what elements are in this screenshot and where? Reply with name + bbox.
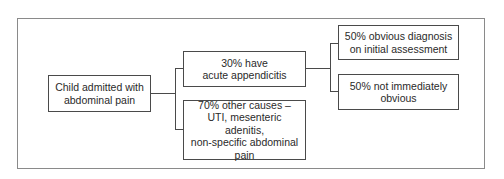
node-not-immediately-obvious: 50% not immediately obvious bbox=[338, 74, 459, 110]
connector-to-not-obvious bbox=[330, 91, 338, 92]
obvious-line-2: on initial assessment bbox=[345, 43, 452, 56]
connector-appendicitis-horizontal bbox=[306, 68, 331, 69]
not-obvious-line-2: obvious bbox=[350, 92, 447, 105]
other-causes-line-1: 70% other causes – bbox=[188, 99, 301, 112]
node-other-causes: 70% other causes – UTI, mesenteric adeni… bbox=[183, 100, 306, 160]
not-obvious-line-1: 50% not immediately bbox=[350, 80, 447, 93]
connector-root-horizontal bbox=[151, 93, 176, 94]
connector-to-other-causes bbox=[175, 129, 183, 130]
other-causes-line-3: non-specific abdominal bbox=[188, 136, 301, 149]
appendicitis-line-2: acute appendicitis bbox=[202, 69, 286, 82]
connector-level1-vertical bbox=[175, 68, 176, 130]
other-causes-line-2: UTI, mesenteric adenitis, bbox=[188, 111, 301, 136]
node-obvious-diagnosis: 50% obvious diagnosis on initial assessm… bbox=[338, 25, 459, 60]
connector-to-obvious bbox=[330, 43, 338, 44]
node-acute-appendicitis: 30% have acute appendicitis bbox=[183, 51, 306, 87]
root-node-line-2: abdominal pain bbox=[55, 94, 144, 107]
root-node-child-admitted: Child admitted with abdominal pain bbox=[48, 75, 151, 112]
connector-level2-vertical bbox=[330, 43, 331, 92]
connector-to-appendicitis bbox=[175, 68, 183, 69]
obvious-line-1: 50% obvious diagnosis bbox=[345, 30, 452, 43]
other-causes-line-4: pain bbox=[188, 149, 301, 162]
appendicitis-line-1: 30% have bbox=[202, 57, 286, 70]
root-node-line-1: Child admitted with bbox=[55, 81, 144, 94]
